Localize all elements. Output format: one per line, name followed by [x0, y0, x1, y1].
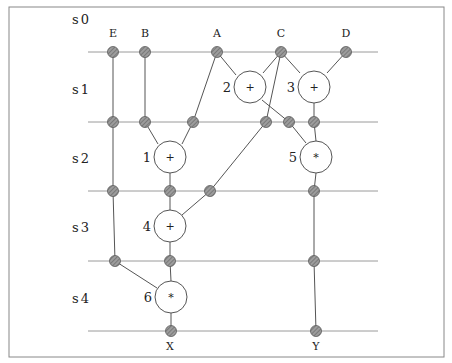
diagram-canvas: s0s1s2s3s4 EBACDXY +1+2+3+4*5*6	[0, 0, 452, 363]
register-marker	[140, 117, 151, 128]
step-boundary-lines	[88, 52, 378, 331]
register-marker	[110, 256, 121, 267]
operation-id: 6	[144, 290, 152, 305]
edge	[266, 52, 281, 122]
input-label-B: B	[141, 27, 149, 40]
plus-operator: +	[309, 81, 318, 94]
register-marker	[309, 117, 320, 128]
register-marker	[309, 256, 320, 267]
multiply-operator: *	[168, 291, 174, 304]
register-marker	[309, 186, 320, 197]
operation-id: 2	[223, 80, 231, 95]
step-label-s1: s1	[72, 82, 91, 97]
register-marker	[108, 47, 119, 58]
input-label-A: A	[212, 27, 222, 40]
step-label-s4: s4	[72, 291, 91, 306]
edge	[193, 52, 217, 122]
input-label-E: E	[109, 27, 117, 40]
operation-id: 5	[289, 150, 297, 165]
plus-operator: +	[165, 220, 174, 233]
operation-node-4: +4	[143, 210, 186, 242]
operation-node-1: +1	[143, 141, 186, 173]
register-marker	[166, 326, 177, 337]
register-marker	[205, 186, 216, 197]
edge	[314, 261, 316, 331]
step-label-s0: s0	[72, 12, 91, 27]
register-marker	[284, 117, 295, 128]
register-marker	[188, 117, 199, 128]
edge	[210, 122, 266, 191]
register-marker	[341, 47, 352, 58]
edge	[113, 191, 115, 261]
output-label-Y: Y	[311, 340, 320, 353]
operation-id: 1	[143, 150, 151, 165]
step-label-s3: s3	[72, 220, 91, 235]
register-marker	[276, 47, 287, 58]
register-marker	[165, 256, 176, 267]
register-marker	[212, 47, 223, 58]
output-label-X: X	[166, 340, 174, 353]
register-marker	[261, 117, 272, 128]
input-label-D: D	[342, 27, 351, 40]
input-label-C: C	[277, 27, 285, 40]
operation-node-6: *6	[144, 281, 187, 313]
dataflow-diagram: s0s1s2s3s4 EBACDXY +1+2+3+4*5*6	[0, 0, 452, 363]
operation-node-2: +2	[223, 71, 266, 103]
plus-operator: +	[165, 151, 174, 164]
register-marker	[140, 47, 151, 58]
register-marker	[165, 186, 176, 197]
operation-id: 4	[143, 219, 151, 234]
multiply-operator: *	[313, 151, 319, 164]
register-marker	[108, 117, 119, 128]
operation-node-5: *5	[289, 141, 332, 173]
operation-node-3: +3	[287, 71, 330, 103]
plus-operator: +	[245, 81, 254, 94]
register-marker	[311, 326, 322, 337]
edge	[115, 261, 157, 288]
step-label-s2: s2	[72, 151, 91, 166]
operation-id: 3	[287, 80, 295, 95]
register-marker	[108, 186, 119, 197]
